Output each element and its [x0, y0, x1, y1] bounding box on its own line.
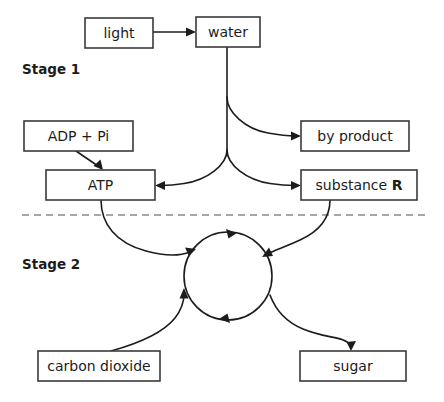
node-substance-r-label: substance R: [316, 177, 403, 193]
connector-atp-to-cycle: [101, 200, 196, 256]
connector-carbon-dioxide-to-cycle: [111, 288, 189, 351]
node-water[interactable]: water: [196, 17, 260, 47]
node-atp[interactable]: ATP: [46, 170, 155, 200]
arrowhead-icon: [186, 28, 196, 37]
connector-substance-r-to-cycle: [262, 200, 330, 257]
node-substance-r-label-plain: substance: [316, 177, 388, 193]
node-carbon-dioxide[interactable]: carbon dioxide: [38, 351, 160, 381]
node-by-product[interactable]: by product: [301, 121, 409, 151]
diagram-canvas: light water ADP + Pi by product ATP subs…: [0, 0, 444, 402]
connector-water-to-by-product: [227, 97, 301, 141]
node-light-label: light: [103, 25, 135, 41]
connector-adp-to-atp: [76, 151, 103, 170]
connector-water-to-substance-r: [227, 150, 301, 190]
node-carbon-dioxide-label: carbon dioxide: [47, 358, 150, 374]
connector-water-to-atp: [155, 150, 227, 190]
cycle-arrowhead-top-icon: [226, 229, 237, 239]
arrowhead-icon: [347, 341, 357, 351]
node-atp-label: ATP: [88, 177, 113, 193]
arrowhead-icon: [155, 181, 165, 190]
arrowhead-icon: [291, 132, 301, 141]
photosynthesis-diagram: light water ADP + Pi by product ATP subs…: [0, 0, 444, 402]
stage-1-label: Stage 1: [22, 61, 80, 77]
cycle-circle-outline: [184, 232, 272, 320]
node-adp-pi[interactable]: ADP + Pi: [24, 121, 133, 151]
node-water-label: water: [208, 24, 248, 40]
stage-2-cycle: [184, 229, 272, 323]
node-light[interactable]: light: [85, 18, 153, 48]
arrowhead-icon: [94, 160, 104, 171]
node-substance-r-label-bold: R: [392, 177, 403, 193]
connector-light-to-water: [153, 28, 196, 37]
node-sugar[interactable]: sugar: [300, 351, 406, 381]
node-sugar-label: sugar: [333, 358, 373, 374]
connector-cycle-to-sugar: [270, 295, 356, 351]
cycle-arrowhead-bottom-icon: [219, 313, 230, 323]
node-substance-r[interactable]: substance R: [301, 170, 417, 200]
stage-2-label: Stage 2: [22, 256, 80, 272]
arrowhead-icon: [291, 181, 301, 190]
node-by-product-label: by product: [317, 128, 393, 144]
node-adp-pi-label: ADP + Pi: [48, 128, 109, 144]
